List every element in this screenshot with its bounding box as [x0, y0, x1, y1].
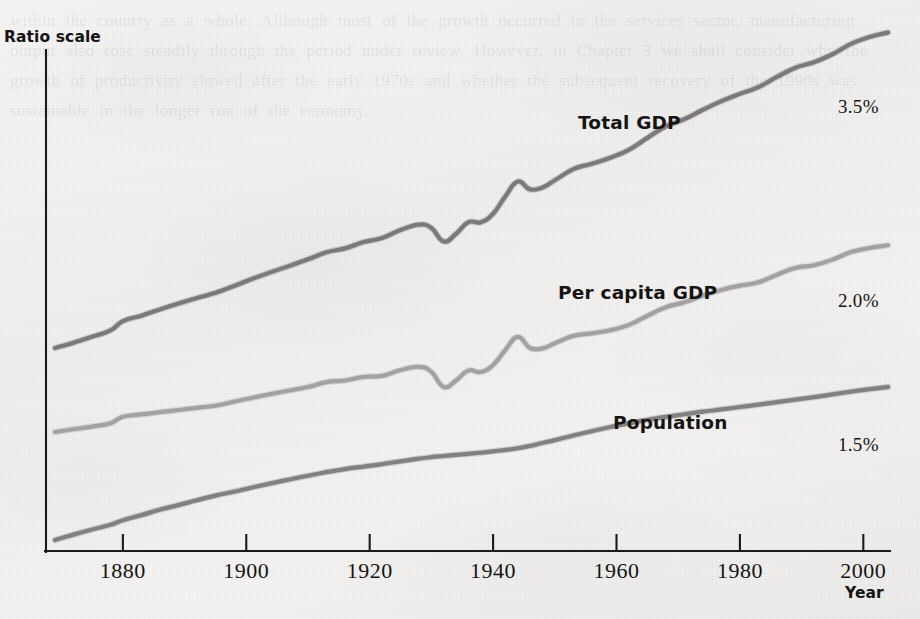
x-axis-tick-label-1980: 1980: [717, 558, 763, 584]
series-line-halo-total-gdp: [55, 32, 888, 348]
rate-label-per-capita-gdp: 2.0%: [838, 290, 879, 312]
x-axis-ticks: [123, 534, 863, 551]
x-axis-tick-label-1920: 1920: [347, 558, 393, 584]
chart-axes: [45, 50, 890, 552]
chart-series-group: [55, 32, 888, 540]
rate-label-total-gdp: 3.5%: [838, 96, 879, 118]
line-chart: [0, 0, 920, 619]
x-axis-tick-label-1880: 1880: [100, 558, 146, 584]
y-axis-title: Ratio scale: [4, 28, 101, 46]
x-axis-tick-label-1960: 1960: [594, 558, 640, 584]
x-axis-tick-label-1940: 1940: [470, 558, 516, 584]
x-axis-title: Year: [845, 584, 884, 602]
series-label-per-capita-gdp: Per capita GDP: [558, 282, 717, 303]
series-label-total-gdp: Total GDP: [578, 112, 681, 133]
figure-page: within the country as a whole. Although …: [0, 0, 920, 619]
x-axis-tick-label-1900: 1900: [223, 558, 269, 584]
rate-label-population: 1.5%: [838, 434, 879, 456]
series-label-population: Population: [613, 412, 728, 433]
x-axis-tick-label-2000: 2000: [840, 558, 886, 584]
